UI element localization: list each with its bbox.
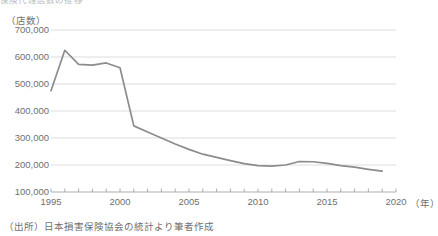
y-tick-label: 300,000 xyxy=(3,132,49,143)
chart-title-text: 保険代理店数の推移 xyxy=(0,0,423,5)
y-tick-label: 500,000 xyxy=(3,78,49,89)
x-axis-ticks xyxy=(51,189,396,193)
x-axis-unit-label: （年） xyxy=(410,196,438,210)
x-tick-label: 2010 xyxy=(247,196,268,207)
x-tick-label: 1995 xyxy=(40,196,61,207)
y-tick-label: 600,000 xyxy=(3,51,49,62)
source-note: （出所）日本損害保険協会の統計より筆者作成 xyxy=(4,219,214,233)
y-tick-label: 400,000 xyxy=(3,105,49,116)
x-tick-label: 2000 xyxy=(109,196,130,207)
x-axis-tick-labels: 199520002005201020152020 xyxy=(0,196,423,210)
plot-area xyxy=(51,30,396,192)
chart-svg xyxy=(51,30,396,192)
x-tick-label: 2005 xyxy=(178,196,199,207)
y-tick-label: 700,000 xyxy=(3,24,49,35)
x-tick-label: 2020 xyxy=(385,196,406,207)
chart-title-cropped: 保険代理店数の推移 xyxy=(0,0,423,5)
y-tick-label: 200,000 xyxy=(3,159,49,170)
x-tick-label: 2015 xyxy=(316,196,337,207)
gridlines xyxy=(51,30,396,192)
